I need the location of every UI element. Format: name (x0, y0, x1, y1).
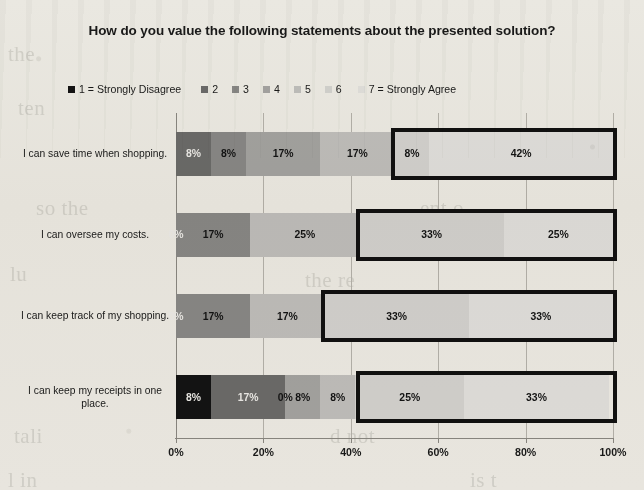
bar-segment-label: 8% (186, 148, 201, 159)
bar-segment[interactable]: 17% (246, 132, 320, 176)
bar-segment-label: 8% (295, 392, 310, 403)
bar-segment-label: 17% (238, 392, 259, 403)
x-axis-tick (176, 438, 177, 443)
legend-item-label: 4 (274, 84, 280, 95)
x-axis-tick-label: 0% (168, 446, 183, 458)
bar-segment[interactable]: 8% (176, 375, 211, 419)
bar-segment[interactable]: 17% (320, 132, 394, 176)
chart-container: How do you value the following statement… (0, 0, 644, 490)
x-axis-tick-label: 80% (515, 446, 536, 458)
bar-segment-label: 17% (277, 311, 298, 322)
legend-swatch-icon (294, 86, 301, 93)
bar-segment[interactable]: 25% (250, 213, 359, 257)
bar-segment[interactable]: 42% (429, 132, 613, 176)
stacked-bar: 0%17%25%33%25% (176, 213, 613, 257)
bar-segment[interactable]: 17% (176, 213, 250, 257)
x-axis-tick (351, 438, 352, 443)
legend-swatch-icon (263, 86, 270, 93)
bar-row[interactable]: I can keep my receipts in one place.8%17… (176, 375, 613, 419)
bar-segment-label: 0% (168, 229, 183, 240)
bar-segment[interactable]: 8% (211, 132, 246, 176)
bar-segment-label: 8% (404, 148, 419, 159)
legend-item-6[interactable]: 6 (325, 84, 342, 95)
bar-segment-label: 25% (399, 392, 420, 403)
chart-legend: 1 = Strongly Disagree234567 = Strongly A… (68, 84, 578, 95)
bar-segment[interactable]: 8% (176, 132, 211, 176)
bar-segment-label: 0% (278, 392, 293, 403)
bar-segment[interactable]: 17% (176, 294, 250, 338)
legend-item-1[interactable]: 1 = Strongly Disagree (68, 84, 181, 95)
x-axis-tick-label: 60% (428, 446, 449, 458)
x-axis-tick (526, 438, 527, 443)
bar-segment-label: 33% (530, 311, 551, 322)
category-label: I can save time when shopping. (20, 147, 170, 160)
x-axis-tick-label: 100% (599, 446, 626, 458)
legend-swatch-icon (325, 86, 332, 93)
bar-segment-label: 33% (526, 392, 547, 403)
legend-swatch-icon (232, 86, 239, 93)
x-axis-tick-label: 20% (253, 446, 274, 458)
bar-segment-label: 8% (330, 392, 345, 403)
bar-segment-label: 17% (203, 229, 224, 240)
legend-swatch-icon (358, 86, 365, 93)
stacked-bar: 8%17%0%8%8%25%33% (176, 375, 613, 419)
bar-segment-label: 8% (186, 392, 201, 403)
category-label: I can keep my receipts in one place. (20, 385, 170, 410)
bar-segment-label: 17% (203, 311, 224, 322)
bar-segment-label: 25% (548, 229, 569, 240)
bar-segment-label: 33% (386, 311, 407, 322)
chart-title: How do you value the following statement… (52, 22, 592, 39)
x-axis-line (175, 438, 613, 439)
x-axis-tick (263, 438, 264, 443)
legend-swatch-icon (201, 86, 208, 93)
bar-segment[interactable]: 33% (469, 294, 613, 338)
bar-segment-label: 8% (221, 148, 236, 159)
legend-item-4[interactable]: 4 (263, 84, 280, 95)
bar-segment[interactable]: 17% (211, 375, 285, 419)
legend-item-5[interactable]: 5 (294, 84, 311, 95)
bar-segment[interactable]: 25% (355, 375, 464, 419)
legend-item-label: 6 (336, 84, 342, 95)
category-label: I can oversee my costs. (20, 229, 170, 242)
bar-row[interactable]: I can oversee my costs.0%17%25%33%25% (176, 213, 613, 257)
x-axis-tick-label: 40% (340, 446, 361, 458)
bar-segment-label: 25% (295, 229, 316, 240)
bar-segment[interactable]: 17% (250, 294, 324, 338)
gridline (613, 113, 614, 438)
x-axis-tick (613, 438, 614, 443)
category-label: I can keep track of my shopping. (20, 310, 170, 323)
legend-item-label: 7 = Strongly Agree (369, 84, 456, 95)
legend-item-2[interactable]: 2 (201, 84, 218, 95)
bar-segment[interactable]: 8% (320, 375, 355, 419)
bar-segment-label: 0% (168, 311, 183, 322)
stacked-bar: 0%17%17%33%33% (176, 294, 613, 338)
legend-item-label: 2 (212, 84, 218, 95)
bar-segment-label: 42% (511, 148, 532, 159)
stacked-bar: 8%8%17%17%8%42% (176, 132, 613, 176)
bar-segment[interactable]: 33% (360, 213, 504, 257)
bar-row[interactable]: I can keep track of my shopping.0%17%17%… (176, 294, 613, 338)
legend-swatch-icon (68, 86, 75, 93)
plot-area: I can save time when shopping.8%8%17%17%… (176, 113, 613, 438)
bar-segment[interactable]: 25% (504, 213, 613, 257)
bar-row[interactable]: I can save time when shopping.8%8%17%17%… (176, 132, 613, 176)
bar-segment-label: 17% (273, 148, 294, 159)
legend-item-7[interactable]: 7 = Strongly Agree (358, 84, 456, 95)
x-axis-tick (438, 438, 439, 443)
legend-item-label: 3 (243, 84, 249, 95)
x-axis-tick-labels: 0%20%40%60%80%100% (176, 446, 613, 462)
legend-item-label: 1 = Strongly Disagree (79, 84, 181, 95)
legend-item-label: 5 (305, 84, 311, 95)
bar-segment[interactable]: 33% (325, 294, 469, 338)
bar-segment-label: 33% (421, 229, 442, 240)
bar-segment[interactable]: 33% (464, 375, 608, 419)
bar-segment-label: 17% (347, 148, 368, 159)
legend-item-3[interactable]: 3 (232, 84, 249, 95)
bar-segment[interactable]: 8% (394, 132, 429, 176)
